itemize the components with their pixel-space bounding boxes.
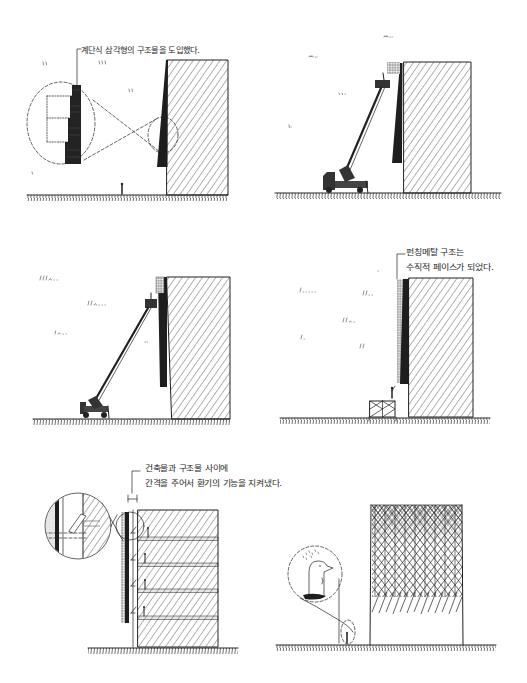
- ground-hatch: [88, 648, 238, 654]
- annotation-leader: [397, 254, 405, 279]
- building-section: [138, 510, 218, 647]
- punched-metal-panel: [156, 277, 164, 293]
- panel-1-stepped-triangle: 계단식 삼각형의 구조물을 도입했다.: [27, 45, 228, 201]
- bird-scribbles: [300, 271, 379, 348]
- penguin-eye: [319, 565, 320, 566]
- building: [167, 277, 230, 419]
- punched-metal-strip: [158, 277, 167, 387]
- lift-bucket: [145, 299, 157, 308]
- detail-zoom-circle: [44, 492, 113, 560]
- ground-hatch: [280, 418, 490, 424]
- person: [346, 632, 348, 643]
- sketch-sheet: 계단식 삼각형의 구조물을 도입했다.: [0, 0, 527, 683]
- building: [167, 60, 228, 195]
- annotation-text-line-2: 간격을 주어서 환기의 기능을 지켜냈다.: [145, 478, 282, 488]
- punched-metal-panel: [387, 62, 400, 74]
- person: [121, 183, 123, 194]
- building: [409, 278, 473, 417]
- lift-boom-rail: [98, 308, 151, 402]
- panel-4-punched-metal-facade: 펀칭메탈 구조는 수직적 페이스가 되었다.: [280, 247, 494, 424]
- bubble-tail-curve: [300, 598, 353, 632]
- crane-boom-rail: [350, 88, 385, 170]
- person: [391, 386, 395, 398]
- panel-6-lattice-facade: [276, 505, 496, 651]
- annotation-text: 계단식 삼각형의 구조물을 도입했다.: [81, 45, 200, 55]
- crane-hook: [383, 73, 384, 80]
- annotation-text-line-2: 수직적 페이스가 되었다.: [406, 262, 494, 272]
- panel-3-aerial-lift: [33, 276, 230, 425]
- triangle-structure: [392, 63, 403, 163]
- ground-hatch: [275, 193, 501, 199]
- bird-scribbles: [40, 276, 148, 342]
- building: [404, 62, 471, 193]
- penguin-thought-bubble: [288, 546, 342, 602]
- lattice-facade-building: [370, 505, 463, 645]
- annotation-text-line-1: 건축물과 구조물 사이에: [145, 463, 228, 473]
- panel-5-ventilation-gap: 건축물과 구조물 사이에 간격을 주어서 환기의 기능을 지켜냈다.: [44, 463, 282, 654]
- crane-boom: [346, 88, 381, 170]
- aerial-lift-vehicle: [80, 396, 109, 418]
- crane-truck: [323, 165, 368, 193]
- panel-2-crane-install: [275, 36, 501, 200]
- lift-boom: [94, 308, 148, 402]
- crane-bucket: [375, 80, 390, 88]
- ground-hatch: [27, 195, 228, 201]
- annotation-leader: [132, 471, 140, 493]
- gap-dimension-mark: [128, 495, 137, 502]
- detail-zoom-circle: [27, 82, 95, 164]
- ground-hatch: [276, 645, 496, 651]
- annotation-text-line-1: 펀칭메탈 구조는: [406, 247, 464, 257]
- ground-hatch: [33, 419, 230, 425]
- facade-shadow: [125, 512, 129, 623]
